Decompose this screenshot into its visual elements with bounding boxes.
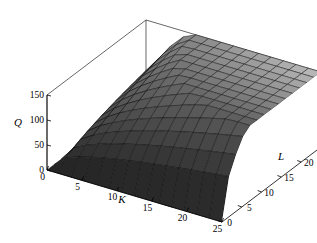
svg-text:5: 5 xyxy=(75,182,80,192)
svg-text:25: 25 xyxy=(213,224,223,234)
svg-text:10: 10 xyxy=(264,188,274,198)
svg-text:50: 50 xyxy=(35,140,45,150)
svg-text:10: 10 xyxy=(108,192,118,202)
svg-text:0: 0 xyxy=(227,218,232,228)
svg-text:100: 100 xyxy=(30,115,45,125)
svg-text:0: 0 xyxy=(40,172,45,182)
svg-text:5: 5 xyxy=(247,203,252,213)
svg-text:15: 15 xyxy=(284,173,294,183)
svg-text:15: 15 xyxy=(143,203,153,213)
svg-text:20: 20 xyxy=(304,158,314,168)
svg-text:20: 20 xyxy=(178,213,188,223)
svg-text:L: L xyxy=(277,150,284,162)
svg-text:Q: Q xyxy=(14,116,22,128)
svg-text:K: K xyxy=(117,193,126,205)
surface-plot-3d: 050100150Q0510152025K0510152025L xyxy=(0,0,317,243)
svg-text:150: 150 xyxy=(30,90,45,100)
